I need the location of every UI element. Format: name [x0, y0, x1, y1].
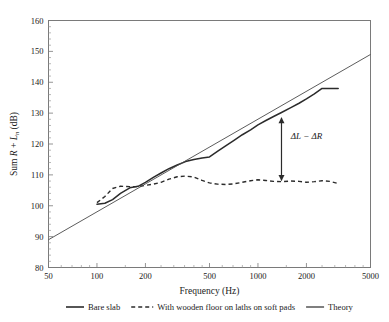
y-tick-label: 130 — [31, 108, 44, 118]
x-tick-label: 2000 — [298, 271, 315, 281]
x-tick-label: 500 — [203, 271, 216, 281]
chart-figure: 50100200500100020005000 8090100110120130… — [0, 0, 389, 322]
x-tick-label: 200 — [139, 271, 152, 281]
chart-svg: 50100200500100020005000 8090100110120130… — [0, 0, 389, 322]
y-tick-label: 120 — [31, 139, 44, 149]
data-series-group — [49, 54, 371, 239]
y-title-units: (dB) — [9, 112, 20, 132]
axis-labels-group: Frequency (Hz)Sum R + Ln (dB) — [9, 112, 239, 297]
y-axis-title: Sum R + Ln (dB) — [9, 112, 20, 176]
y-tick-label: 80 — [35, 263, 44, 273]
y-tick-label: 160 — [31, 16, 44, 26]
y-axis-ticks: 8090100110120130140150160 — [31, 16, 53, 273]
x-tick-label: 5000 — [362, 271, 379, 281]
plot-frame — [49, 21, 371, 268]
legend-label: Bare slab — [88, 302, 120, 312]
plot-border — [49, 21, 371, 268]
chart-legend: Bare slabWith wooden floor on laths on s… — [66, 302, 354, 312]
legend-label: Theory — [328, 302, 354, 312]
annotation-label: ΔL − ΔR — [290, 131, 323, 141]
y-tick-label: 150 — [31, 46, 44, 56]
annotation-group: ΔL − ΔR — [278, 117, 322, 181]
y-tick-label: 140 — [31, 77, 44, 87]
legend-label: With wooden floor on laths on soft pads — [157, 302, 296, 312]
y-tick-label: 90 — [35, 232, 44, 242]
annotation-arrowhead-top — [278, 117, 284, 123]
y-title-prefix: Sum — [9, 156, 19, 176]
x-tick-label: 1000 — [249, 271, 266, 281]
series-path-theory — [49, 54, 371, 239]
x-axis-title: Frequency (Hz) — [180, 286, 240, 297]
x-tick-label: 50 — [44, 271, 53, 281]
y-tick-label: 110 — [31, 170, 43, 180]
x-axis-ticks: 50100200500100020005000 — [44, 263, 379, 281]
series-path-with-wooden-floor-on-laths-on-soft-pads — [97, 176, 338, 203]
x-tick-label: 100 — [91, 271, 104, 281]
y-title-plus: + — [9, 140, 19, 150]
y-tick-label: 100 — [31, 201, 44, 211]
annotation-arrowhead-bottom — [278, 175, 284, 181]
